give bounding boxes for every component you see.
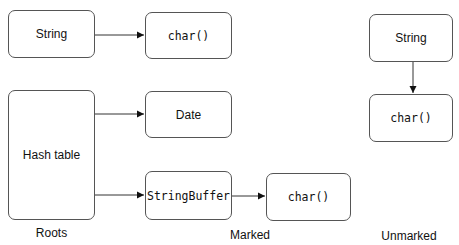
node-label: char(): [390, 111, 432, 125]
group-label-unmarked: Unmarked: [376, 229, 442, 243]
node-label: Date: [176, 108, 201, 122]
node-unmarked-string: String: [369, 14, 453, 62]
node-marked-char-2: char(): [266, 173, 351, 221]
node-label: String: [395, 31, 426, 45]
node-label: Hash table: [23, 148, 80, 162]
node-label: char(): [168, 29, 210, 43]
group-label-marked: Marked: [220, 228, 280, 242]
node-root-string: String: [8, 10, 95, 58]
node-marked-date: Date: [145, 91, 232, 138]
group-label-roots: Roots: [8, 226, 95, 240]
node-marked-char-1: char(): [145, 12, 232, 59]
node-label: String: [36, 27, 67, 41]
node-label: char(): [288, 190, 330, 204]
node-label: StringBuffer: [147, 189, 230, 203]
node-hash-table: Hash table: [8, 90, 95, 220]
node-marked-stringbuffer: StringBuffer: [145, 171, 232, 220]
node-unmarked-char: char(): [369, 94, 453, 142]
